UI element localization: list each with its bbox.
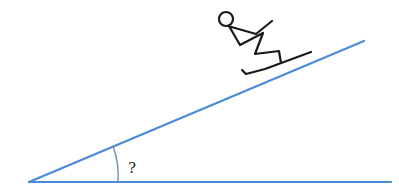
skier-ski: [242, 52, 311, 74]
skier: [219, 12, 311, 74]
skier-body: [229, 26, 281, 63]
skier-arm: [228, 21, 272, 34]
inclined-plane-diagram: ?: [0, 0, 399, 194]
skier-head: [219, 12, 233, 26]
angle-arc: [113, 146, 118, 182]
slope-line: [29, 41, 364, 182]
angle-label: ?: [128, 159, 136, 177]
